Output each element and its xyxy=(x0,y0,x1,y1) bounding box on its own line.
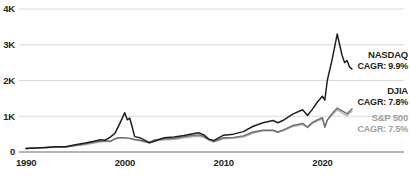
x-axis-tick-label: 2020 xyxy=(312,157,332,168)
legend-cagr-sp500: CAGR: 7.5% xyxy=(357,124,408,134)
y-axis-tick-label: 0 xyxy=(10,146,15,157)
legend-label-djia: DJIA xyxy=(357,86,408,97)
legend-cagr-djia: CAGR: 7.8% xyxy=(357,97,408,107)
x-axis-tick-labels: 1990200020102020 xyxy=(16,157,333,168)
index-performance-chart: 01K2K3K4K 1990200020102020 NASDAQ CAGR: … xyxy=(0,0,410,185)
series-line-s-p-500 xyxy=(26,110,352,149)
gridlines xyxy=(19,9,404,152)
legend-cagr-nasdaq: CAGR: 9.9% xyxy=(357,61,408,71)
x-axis-tick-label: 2010 xyxy=(214,157,234,168)
chart-plot-area: 01K2K3K4K 1990200020102020 xyxy=(0,0,410,185)
series-line-nasdaq xyxy=(26,34,352,148)
legend-label-nasdaq: NASDAQ xyxy=(357,50,408,61)
legend-label-sp500: S&P 500 xyxy=(357,113,408,124)
y-axis-tick-label: 4K xyxy=(3,3,15,14)
series-lines xyxy=(26,34,352,148)
legend-item-djia: DJIA CAGR: 7.8% xyxy=(357,86,408,107)
x-axis-tick-label: 2000 xyxy=(115,157,135,168)
y-axis-tick-labels: 01K2K3K4K xyxy=(3,3,15,157)
y-axis-tick-label: 3K xyxy=(3,39,15,50)
legend-item-sp500: S&P 500 CAGR: 7.5% xyxy=(357,113,408,134)
y-axis-tick-label: 2K xyxy=(3,75,15,86)
x-axis-tick-label: 1990 xyxy=(16,157,36,168)
legend-item-nasdaq: NASDAQ CAGR: 9.9% xyxy=(357,50,408,71)
y-axis-tick-label: 1K xyxy=(3,111,15,122)
series-line-djia xyxy=(26,108,352,148)
